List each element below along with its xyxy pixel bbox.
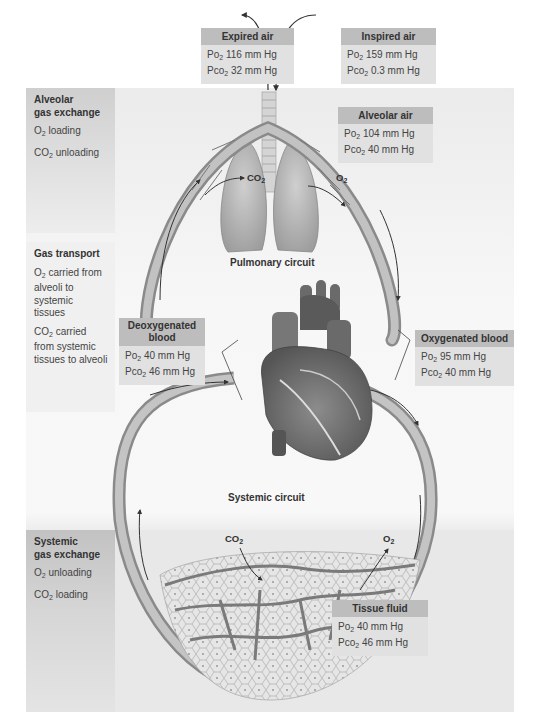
- value: 40 mm Hg: [368, 144, 414, 155]
- tissue-co2-label: CO2: [225, 533, 243, 545]
- oxygenated-blood-pco2: Pco2 40 mm Hg: [421, 366, 508, 382]
- value: 40 mm Hg: [144, 350, 190, 361]
- value: 104 mm Hg: [363, 128, 415, 139]
- tissue-fluid-title: Tissue fluid: [332, 600, 428, 617]
- alveolar-air-title: Alveolar air: [338, 107, 433, 124]
- value: 95 mm Hg: [440, 351, 486, 362]
- sub: 2: [137, 355, 141, 362]
- sub: 2: [390, 538, 394, 545]
- value: 0.3 mm Hg: [371, 65, 420, 76]
- pco-prefix: Pco: [125, 366, 142, 377]
- pulmonary-circuit-label: Pulmonary circuit: [230, 257, 314, 268]
- po-prefix: Po: [347, 49, 359, 60]
- inspired-air-po2: Po2 159 mm Hg: [347, 48, 430, 64]
- sub: 2: [142, 371, 146, 378]
- value: 32 mm Hg: [231, 65, 277, 76]
- alveolar-air-po2: Po2 104 mm Hg: [344, 127, 427, 143]
- deoxygenated-blood-title: Deoxygenated blood: [119, 318, 205, 346]
- alveolar-air-box: Alveolar air Po2 104 mm Hg Pco2 40 mm Hg: [338, 107, 433, 163]
- value: 46 mm Hg: [362, 637, 408, 648]
- gas: CO: [247, 172, 261, 183]
- tissue-o2-label: O2: [383, 533, 394, 545]
- lung-o2-label: O2: [336, 172, 347, 184]
- gas: CO: [225, 533, 239, 544]
- pco-prefix: Pco: [421, 367, 438, 378]
- value: 46 mm Hg: [149, 366, 195, 377]
- sub: 2: [364, 70, 368, 77]
- expired-air-po2: Po2 116 mm Hg: [207, 48, 288, 64]
- value: 40 mm Hg: [357, 621, 403, 632]
- tissue-fluid-po2: Po2 40 mm Hg: [338, 620, 422, 636]
- value: 116 mm Hg: [226, 49, 277, 60]
- oxygenated-blood-title: Oxygenated blood: [415, 330, 514, 347]
- pco-prefix: Pco: [207, 65, 224, 76]
- oxygenated-blood-po2: Po2 95 mm Hg: [421, 350, 508, 366]
- title-line2: blood: [148, 332, 175, 343]
- value: 159 mm Hg: [366, 49, 418, 60]
- sub: 2: [261, 177, 265, 184]
- po-prefix: Po: [344, 128, 356, 139]
- inspired-air-box: Inspired air Po2 159 mm Hg Pco2 0.3 mm H…: [341, 28, 436, 84]
- sub: 2: [350, 626, 354, 633]
- title-line1: Deoxygenated: [128, 320, 196, 331]
- systemic-circuit-label: Systemic circuit: [228, 492, 305, 503]
- pco-prefix: Pco: [344, 144, 361, 155]
- pco-prefix: Pco: [347, 65, 364, 76]
- inspired-air-pco2: Pco2 0.3 mm Hg: [347, 64, 430, 80]
- sub: 2: [219, 54, 223, 61]
- lung-co2-label: CO2: [247, 172, 265, 184]
- tissue-fluid-pco2: Pco2 46 mm Hg: [338, 636, 422, 652]
- value: 40 mm Hg: [445, 367, 491, 378]
- sub: 2: [355, 642, 359, 649]
- inspired-air-title: Inspired air: [341, 28, 436, 45]
- po-prefix: Po: [338, 621, 350, 632]
- deoxygenated-blood-box: Deoxygenated blood Po2 40 mm Hg Pco2 46 …: [119, 318, 205, 385]
- deoxygenated-blood-po2: Po2 40 mm Hg: [125, 349, 199, 365]
- po-prefix: Po: [125, 350, 137, 361]
- sub: 2: [433, 356, 437, 363]
- po-prefix: Po: [207, 49, 219, 60]
- sub: 2: [359, 54, 363, 61]
- heart: [261, 280, 372, 460]
- sub: 2: [361, 149, 365, 156]
- sub: 2: [239, 538, 243, 545]
- sub: 2: [356, 133, 360, 140]
- expired-air-title: Expired air: [201, 28, 294, 45]
- po-prefix: Po: [421, 351, 433, 362]
- deoxygenated-blood-pco2: Pco2 46 mm Hg: [125, 365, 199, 381]
- tissue-fluid-box: Tissue fluid Po2 40 mm Hg Pco2 46 mm Hg: [332, 600, 428, 656]
- sub: 2: [438, 372, 442, 379]
- oxygenated-blood-box: Oxygenated blood Po2 95 mm Hg Pco2 40 mm…: [415, 330, 514, 386]
- alveolar-air-pco2: Pco2 40 mm Hg: [344, 143, 427, 159]
- pco-prefix: Pco: [338, 637, 355, 648]
- expired-air-pco2: Pco2 32 mm Hg: [207, 64, 288, 80]
- sub: 2: [224, 70, 228, 77]
- sub: 2: [343, 177, 347, 184]
- expired-air-box: Expired air Po2 116 mm Hg Pco2 32 mm Hg: [201, 28, 294, 84]
